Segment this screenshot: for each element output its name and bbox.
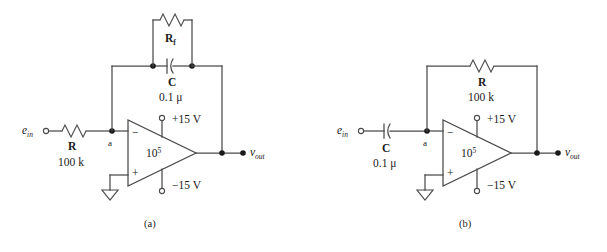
- output-label-a: vout: [250, 146, 266, 161]
- ground-symbol-a: [102, 190, 118, 200]
- supply-negative-terminal-b: [474, 188, 479, 193]
- output-terminal-b: [555, 150, 561, 156]
- capacitor-label-b: C: [382, 142, 390, 154]
- input-label-a: ein: [22, 124, 33, 139]
- input-resistor-label-a: R: [68, 140, 77, 152]
- ground-symbol-b: [417, 190, 433, 200]
- node-a-label-b: a: [423, 138, 427, 148]
- supply-positive-label-b: +15 V: [487, 113, 517, 125]
- opamp-inverting-sign-a: −: [132, 126, 139, 138]
- output-junction-b: [534, 150, 540, 156]
- capacitor-label-a: C: [168, 76, 176, 88]
- opamp-inverting-sign-b: −: [447, 126, 454, 138]
- output-junction-a: [219, 150, 225, 156]
- node-a-label-a: a: [108, 138, 112, 148]
- input-label-b: ein: [337, 124, 348, 139]
- capacitor-value-b: 0.1 μ: [373, 157, 396, 170]
- output-terminal-a: [240, 150, 246, 156]
- capacitor-value-a: 0.1 μ: [159, 91, 182, 104]
- supply-positive-terminal-b: [474, 115, 479, 120]
- supply-negative-terminal-a: [159, 188, 164, 193]
- feedback-resistor-label-b: R: [478, 76, 487, 88]
- caption-b: (b): [459, 218, 472, 230]
- feedback-resistor-symbol-b: [470, 60, 494, 72]
- output-label-b: vout: [565, 146, 581, 161]
- feedback-resistor-label-a: Rf: [165, 32, 176, 47]
- input-terminal-a: [43, 128, 48, 133]
- feedback-resistor-symbol-a: [160, 14, 184, 26]
- circuit-figure: 105 − + ein R 100 k a C 0.1 μ: [0, 0, 607, 252]
- input-resistor-symbol-a: [62, 125, 86, 137]
- opamp-noninverting-sign-a: +: [132, 167, 139, 179]
- input-resistor-value-a: 100 k: [58, 156, 84, 168]
- opamp-noninverting-sign-b: +: [447, 167, 454, 179]
- supply-positive-label-a: +15 V: [172, 113, 202, 125]
- supply-negative-label-b: −15 V: [487, 179, 517, 191]
- caption-a: (a): [144, 218, 156, 230]
- input-terminal-b: [358, 128, 363, 133]
- supply-negative-label-a: −15 V: [172, 179, 202, 191]
- supply-positive-terminal-a: [159, 115, 164, 120]
- feedback-resistor-value-b: 100 k: [468, 91, 494, 103]
- circuit-b: 105 − + ein C 0.1 μ a R 100 k vout: [337, 60, 581, 230]
- circuit-a: 105 − + ein R 100 k a C 0.1 μ: [22, 14, 266, 230]
